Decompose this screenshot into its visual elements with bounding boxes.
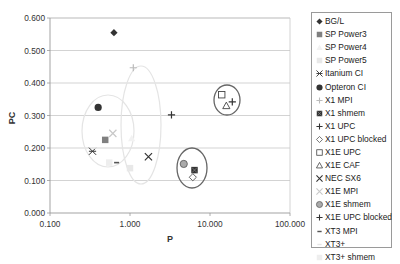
y-tick-label: 0.400 bbox=[24, 78, 45, 88]
legend-marker-icon bbox=[315, 43, 324, 52]
data-point-bg-l bbox=[110, 29, 117, 36]
legend-marker-icon bbox=[315, 17, 324, 26]
legend-label: X1E UPC blocked bbox=[325, 211, 392, 224]
ellipse-annotations bbox=[82, 66, 240, 188]
y-tick-label: 0.300 bbox=[24, 111, 45, 121]
legend-marker-icon bbox=[315, 122, 324, 131]
legend-label: X1E MPI bbox=[325, 185, 358, 198]
x-tick-label: 10.000 bbox=[197, 219, 223, 229]
legend-label: NEC SX6 bbox=[325, 172, 361, 185]
legend-marker-icon bbox=[315, 213, 324, 222]
data-point-sp-power5 bbox=[127, 165, 133, 171]
legend-marker-icon bbox=[315, 109, 324, 118]
data-point-x1e-upc-blocked bbox=[229, 98, 236, 105]
legend-label: X1E UPC bbox=[325, 146, 361, 159]
legend-item: X1E UPC bbox=[315, 146, 391, 159]
legend-marker-icon bbox=[315, 253, 324, 262]
axes: 0.0000.1000.2000.3000.4000.5000.6000.100… bbox=[24, 13, 305, 229]
y-axis-label: PC bbox=[7, 111, 17, 124]
legend-item: SP Power5 bbox=[315, 54, 391, 67]
legend-item: X1 UPC blocked bbox=[315, 133, 391, 146]
legend-label: X1 MPI bbox=[325, 94, 352, 107]
x-tick-label: 0.100 bbox=[40, 219, 61, 229]
legend-label: SP Power5 bbox=[325, 54, 367, 67]
legend-label: Opteron CI bbox=[325, 81, 366, 94]
legend-label: X1 UPC blocked bbox=[325, 133, 386, 146]
legend-item: Itanium CI bbox=[315, 67, 391, 80]
legend: BG/LSP Power3SP Power4SP Power5Itanium C… bbox=[311, 12, 392, 248]
data-point-x1-upc bbox=[168, 111, 175, 118]
legend-item: XT3+ bbox=[315, 238, 391, 251]
legend-item: X1 UPC bbox=[315, 120, 391, 133]
y-tick-label: 0.500 bbox=[24, 46, 45, 56]
annotation-ellipse bbox=[82, 95, 134, 167]
legend-marker-icon bbox=[315, 96, 324, 105]
legend-marker-icon bbox=[315, 161, 324, 170]
legend-item: X1E shmem bbox=[315, 198, 391, 211]
legend-marker-icon bbox=[315, 83, 324, 92]
legend-marker-icon bbox=[315, 187, 324, 196]
legend-marker-icon bbox=[315, 56, 324, 65]
legend-item: SP Power3 bbox=[315, 28, 391, 41]
y-tick-label: 0.100 bbox=[24, 176, 45, 186]
data-point-xt3-shmem bbox=[106, 159, 112, 165]
legend-label: X1 UPC bbox=[325, 120, 355, 133]
data-point-x1-shmem bbox=[191, 167, 197, 173]
data-point-x1e-shmem bbox=[180, 160, 187, 167]
x-axis-label: P bbox=[167, 234, 173, 244]
legend-item: NEC SX6 bbox=[315, 172, 391, 185]
data-point-x1-mpi bbox=[130, 64, 137, 71]
x-tick-label: 100.000 bbox=[275, 219, 305, 229]
legend-label: X1E CAF bbox=[325, 159, 360, 172]
legend-label: X1E shmem bbox=[325, 198, 371, 211]
legend-marker-icon bbox=[315, 227, 324, 236]
legend-marker-icon bbox=[315, 30, 324, 39]
data-point-nec-sx6 bbox=[145, 153, 152, 160]
legend-item: X1E MPI bbox=[315, 185, 391, 198]
x-tick-label: 1.000 bbox=[120, 219, 141, 229]
legend-label: X1 shmem bbox=[325, 107, 365, 120]
y-tick-label: 0.200 bbox=[24, 143, 45, 153]
legend-label: BG/L bbox=[325, 15, 344, 28]
data-point-sp-power3 bbox=[102, 137, 108, 143]
legend-item: SP Power4 bbox=[315, 41, 391, 54]
legend-marker-icon bbox=[315, 69, 324, 78]
legend-item: XT3 MPI bbox=[315, 225, 391, 238]
legend-marker-icon bbox=[315, 135, 324, 144]
legend-marker-icon bbox=[315, 174, 324, 183]
data-point-x1e-upc bbox=[218, 91, 224, 97]
legend-marker-icon bbox=[315, 200, 324, 209]
y-tick-label: 0.600 bbox=[24, 13, 45, 23]
legend-label: XT3 MPI bbox=[325, 225, 358, 238]
legend-item: X1 MPI bbox=[315, 94, 391, 107]
legend-item: X1 shmem bbox=[315, 107, 391, 120]
y-tick-label: 0.000 bbox=[24, 208, 45, 218]
legend-item: X1E UPC blocked bbox=[315, 211, 391, 224]
legend-label: Itanium CI bbox=[325, 67, 363, 80]
legend-label: SP Power3 bbox=[325, 28, 367, 41]
legend-label: XT3+ shmem bbox=[325, 251, 375, 264]
legend-label: XT3+ bbox=[325, 238, 345, 251]
data-point-x1-upc-blocked bbox=[189, 174, 196, 181]
data-point-x1e-mpi bbox=[109, 130, 116, 137]
legend-item: XT3+ shmem bbox=[315, 251, 391, 264]
annotation-ellipse bbox=[214, 85, 240, 115]
data-points bbox=[89, 29, 236, 181]
legend-marker-icon bbox=[315, 240, 324, 249]
data-point-opteron-ci bbox=[95, 104, 102, 111]
legend-marker-icon bbox=[315, 148, 324, 157]
data-point-x1e-caf bbox=[223, 102, 230, 108]
legend-item: Opteron CI bbox=[315, 80, 391, 93]
legend-item: X1E CAF bbox=[315, 159, 391, 172]
legend-item: BG/L bbox=[315, 15, 391, 28]
legend-label: SP Power4 bbox=[325, 41, 367, 54]
gridlines bbox=[50, 18, 290, 213]
